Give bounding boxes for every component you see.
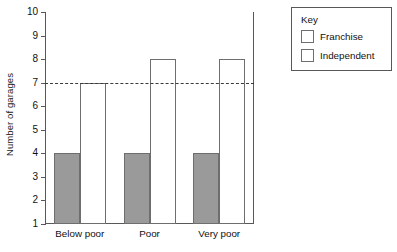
y-axis-tick-mark [41, 59, 46, 60]
bar-chart-screenshot: Number of garages 12345678910 Key Franch… [0, 0, 397, 252]
x-axis-tick-label: Poor [139, 228, 160, 239]
y-axis-tick-label: 10 [24, 7, 38, 17]
x-axis-tick-label: Very poor [198, 228, 240, 239]
y-axis-tick-mark [41, 200, 46, 201]
legend-entry-franchise: Franchise [301, 30, 363, 43]
y-axis-tick-label: 4 [24, 148, 38, 158]
y-axis-tick-mark [41, 130, 46, 131]
y-axis-tick-mark [41, 224, 46, 225]
legend-label-franchise: Franchise [320, 31, 363, 42]
y-axis-tick-label: 1 [24, 219, 38, 229]
y-axis-tick-mark [41, 36, 46, 37]
y-axis-tick-label: 3 [24, 172, 38, 182]
bar-independent-below-poor [80, 83, 106, 224]
y-axis-tick-labels: 12345678910 [22, 0, 38, 252]
y-axis-line [45, 12, 46, 224]
reference-line-y-7 [45, 83, 254, 84]
y-axis-title-text: Number of garages [5, 72, 16, 155]
legend-title: Key [301, 14, 318, 25]
bar-franchise-very-poor [193, 153, 219, 224]
y-axis-tick-mark [41, 153, 46, 154]
y-axis-tick-mark [41, 106, 46, 107]
y-axis-tick-label: 6 [24, 101, 38, 111]
bar-franchise-poor [124, 153, 150, 224]
white-empty-swatch-icon [301, 49, 314, 62]
bar-franchise-below-poor [54, 153, 80, 224]
bar-independent-very-poor [219, 59, 245, 224]
y-axis-tick-label: 8 [24, 54, 38, 64]
y-axis-tick-mark [41, 177, 46, 178]
y-axis-title: Number of garages [2, 0, 18, 228]
y-axis-tick-label: 9 [24, 31, 38, 41]
y-axis-tick-label: 5 [24, 125, 38, 135]
y-axis-tick-label: 7 [24, 78, 38, 88]
bar-independent-poor [150, 59, 176, 224]
x-axis-tick-label: Below poor [55, 228, 104, 239]
plot-area [45, 12, 254, 224]
gray-filled-swatch-icon [301, 30, 314, 43]
y-axis-tick-label: 2 [24, 195, 38, 205]
legend-key-box: Key Franchise Independent [291, 7, 392, 71]
y-axis-tick-mark [41, 12, 46, 13]
legend-entry-independent: Independent [301, 49, 374, 62]
legend-label-independent: Independent [320, 50, 374, 61]
plot-right-border [253, 12, 254, 224]
